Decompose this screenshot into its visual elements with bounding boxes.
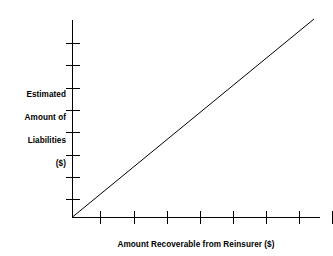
- y-axis-label: Estimated Amount of Liabilities ($): [0, 78, 66, 181]
- y-axis-label-line-3: Liabilities: [0, 135, 66, 146]
- x-axis-label: Amount Recoverable from Reinsurer ($): [72, 240, 320, 249]
- y-axis-label-line-2: Amount of: [0, 112, 66, 123]
- data-series-line: [73, 19, 315, 217]
- y-axis-label-line-1: Estimated: [0, 89, 66, 100]
- y-axis-label-line-4: ($): [0, 158, 66, 169]
- chart-figure: Estimated Amount of Liabilities ($) Amou…: [0, 0, 333, 256]
